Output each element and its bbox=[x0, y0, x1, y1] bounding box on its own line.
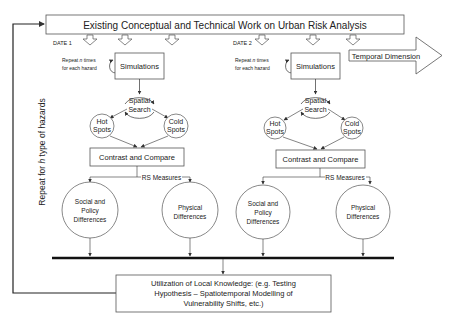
simulations-label: Simulations bbox=[120, 62, 159, 71]
svg-text:Spots: Spots bbox=[93, 126, 111, 134]
hot-spots-label: Hot bbox=[97, 118, 108, 125]
temporal-dimension-label: Temporal Dimension bbox=[352, 52, 420, 61]
date-2-panel: Repeat n times for each hazard Simulatio… bbox=[235, 53, 390, 256]
svg-text:Differences: Differences bbox=[74, 216, 108, 223]
date-1-panel: Repeat n times for each hazard Simulatio… bbox=[62, 53, 218, 256]
svg-text:Spots: Spots bbox=[167, 126, 185, 134]
contrast-compare-label: Contrast and Compare bbox=[283, 155, 359, 164]
physical-differences-label: Physical bbox=[351, 204, 376, 212]
down-arrow-icon bbox=[306, 35, 320, 45]
svg-text:Spots: Spots bbox=[343, 128, 361, 136]
local-knowledge-line3: Vulnerability Shifts, etc.) bbox=[183, 299, 264, 308]
svg-text:Policy: Policy bbox=[254, 209, 272, 217]
contrast-compare-label: Contrast and Compare bbox=[99, 153, 175, 162]
down-arrow-icon bbox=[255, 35, 269, 45]
spatial-search-label: Spatial bbox=[129, 97, 151, 105]
repeat-note-line2: for each hazard bbox=[235, 65, 270, 71]
repeat-note: Repeat n times bbox=[62, 57, 96, 63]
cold-spots-label: Cold bbox=[169, 118, 184, 125]
repeat-hazard-types-label: Repeat for h type of hazards bbox=[37, 98, 47, 205]
down-arrow-icon bbox=[118, 35, 132, 45]
spatial-search-label: Spatial bbox=[305, 97, 327, 105]
date-2-label: DATE 2 bbox=[233, 40, 252, 46]
rs-measures-label: RS Measures bbox=[325, 174, 365, 181]
down-arrow-icon bbox=[165, 35, 179, 45]
repeat-note-line2: for each hazard bbox=[62, 65, 97, 71]
svg-text:Differences: Differences bbox=[347, 213, 381, 220]
urban-risk-diagram: Existing Conceptual and Technical Work o… bbox=[0, 0, 452, 324]
svg-text:Search: Search bbox=[128, 106, 150, 113]
local-knowledge-line2: Hypothesis – Spatiotemporal Modelling of bbox=[154, 289, 293, 298]
social-policy-label: Social and bbox=[75, 198, 106, 205]
svg-text:Spots: Spots bbox=[266, 128, 284, 136]
social-policy-label: Social and bbox=[248, 200, 279, 207]
physical-differences-label: Physical bbox=[178, 204, 203, 212]
temporal-dimension-arrow: Temporal Dimension bbox=[349, 37, 442, 74]
local-knowledge-line1: Utilization of Local Knowledge: (e.g. Te… bbox=[151, 279, 296, 288]
simulations-label: Simulations bbox=[296, 62, 335, 71]
physical-differences-circle bbox=[336, 185, 390, 239]
down-arrow-icon bbox=[83, 35, 97, 45]
hot-spots-label: Hot bbox=[270, 120, 281, 127]
svg-text:Differences: Differences bbox=[174, 213, 208, 220]
repeat-note: Repeat n times bbox=[235, 57, 269, 63]
svg-text:Differences: Differences bbox=[247, 218, 281, 225]
hollow-down-arrows bbox=[83, 35, 360, 45]
cold-spots-label: Cold bbox=[345, 120, 360, 127]
date-1-label: DATE 1 bbox=[53, 40, 72, 46]
svg-text:Policy: Policy bbox=[81, 207, 99, 215]
existing-work-box: Existing Conceptual and Technical Work o… bbox=[46, 15, 404, 34]
svg-text:Search: Search bbox=[304, 106, 326, 113]
existing-work-label: Existing Conceptual and Technical Work o… bbox=[83, 20, 367, 31]
rs-measures-label: RS Measures bbox=[142, 174, 182, 181]
down-arrow-icon bbox=[346, 35, 360, 45]
local-knowledge-box: Utilization of Local Knowledge: (e.g. Te… bbox=[116, 275, 331, 312]
